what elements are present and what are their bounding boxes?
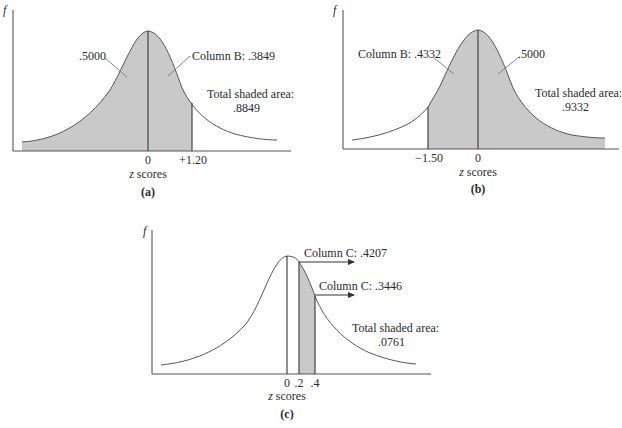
tick-label-0-b: 0 xyxy=(475,151,481,165)
left-area-label-b: Column B: .4332 xyxy=(358,47,441,61)
left-area-label-a: .5000 xyxy=(79,49,106,63)
total-label-c-line2: .0761 xyxy=(378,335,405,349)
x-axis-label-a: z scores xyxy=(128,167,167,181)
total-label-a-line1: Total shaded area: xyxy=(207,87,294,101)
panel-c: f Column C: .4207 Column C: .3446 Total … xyxy=(143,224,439,421)
tick-label-0-c: 0 xyxy=(284,376,290,390)
arrow-label-2-c: Column C: .3446 xyxy=(319,279,402,293)
tick-label-04-c: .4 xyxy=(311,376,320,390)
right-area-label-b: .5000 xyxy=(518,47,545,61)
caption-b: (b) xyxy=(471,182,486,196)
figure-canvas: f .5000 Column B: .3849 Total shaded are… xyxy=(0,0,622,428)
x-axis-label-b: z scores xyxy=(458,165,497,179)
y-axis-label-b: f xyxy=(333,3,338,17)
caption-a: (a) xyxy=(141,185,155,199)
total-label-b-line1: Total shaded area: xyxy=(535,86,622,100)
total-label-c-line1: Total shaded area: xyxy=(352,321,439,335)
tick-label-02-c: .2 xyxy=(295,376,304,390)
shaded-area-c xyxy=(299,262,315,374)
tick-label-0-a: 0 xyxy=(145,153,151,167)
arrow-label-1-c: Column C: .4207 xyxy=(304,246,387,260)
panel-a: f .5000 Column B: .3849 Total shaded are… xyxy=(3,3,294,199)
right-area-label-a: Column B: .3849 xyxy=(192,49,275,63)
total-label-b-line2: .9332 xyxy=(562,100,589,114)
y-axis-label-c: f xyxy=(143,224,148,238)
tick-label-z-a: +1.20 xyxy=(179,153,207,167)
panel-b: f Column B: .4332 .5000 Total shaded are… xyxy=(333,3,622,196)
caption-c: (c) xyxy=(280,407,293,421)
x-axis-label-c: z scores xyxy=(267,389,306,403)
tick-label-z-b: −1.50 xyxy=(415,151,443,165)
y-axis-label-a: f xyxy=(3,3,8,17)
total-label-a-line2: .8849 xyxy=(233,101,260,115)
